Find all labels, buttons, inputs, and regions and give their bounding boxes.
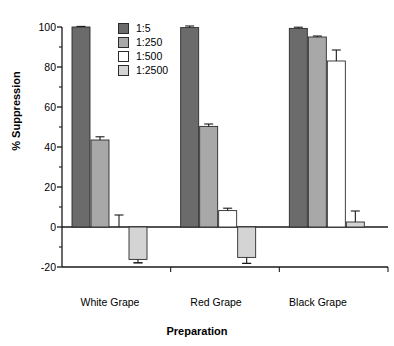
bar-black-grape-1-2500 [346,222,364,227]
bar-red-grape-1-250 [200,126,218,227]
chart-figure: % Suppression Preparation 100 80 60 40 2… [0,0,394,346]
chart-plot-area [0,0,394,346]
bar-white-grape-1-5 [72,27,90,227]
bar-red-grape-1-5 [181,28,199,227]
bar-white-grape-1-2500 [129,227,147,259]
bars-layer [72,27,364,259]
bar-white-grape-1-250 [91,140,109,227]
bar-black-grape-1-500 [327,61,345,227]
bar-red-grape-1-500 [219,211,237,227]
bar-black-grape-1-250 [308,37,326,227]
bar-black-grape-1-5 [289,28,307,227]
bar-red-grape-1-2500 [238,227,256,257]
